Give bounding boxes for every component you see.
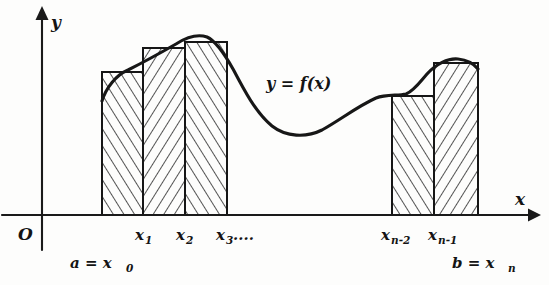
tick-label-xn-1: x n-1 bbox=[427, 226, 457, 246]
svg-text:2: 2 bbox=[185, 234, 193, 246]
svg-text:x: x bbox=[134, 226, 145, 244]
tick-label-xn-2: x n-2 bbox=[380, 226, 410, 246]
bar-1 bbox=[102, 72, 143, 215]
svg-text:x: x bbox=[215, 226, 226, 244]
svg-text:n: n bbox=[508, 262, 516, 274]
x-axis-arrowhead bbox=[528, 209, 541, 222]
endpoint-label-b: b = x n bbox=[452, 254, 516, 274]
svg-text:....: .... bbox=[233, 226, 254, 244]
y-axis-label: y bbox=[50, 12, 62, 32]
rectangle-bars-group bbox=[102, 42, 478, 215]
svg-text:x: x bbox=[427, 226, 438, 244]
svg-text:n-2: n-2 bbox=[391, 234, 410, 246]
tick-label-x3: x 3 .... bbox=[215, 226, 254, 246]
tick-label-x1: x 1 bbox=[134, 226, 152, 246]
bar-2 bbox=[143, 48, 185, 215]
y-axis-arrowhead bbox=[36, 6, 49, 20]
endpoint-label-a: a = x 0 bbox=[70, 254, 134, 274]
bar-3 bbox=[185, 42, 227, 215]
svg-text:x: x bbox=[175, 226, 186, 244]
bar-n-1 bbox=[392, 96, 434, 215]
bar-n bbox=[434, 63, 478, 215]
figure-canvas: y x O y = f(x) x 1 x 2 x 3 .... x n-2 bbox=[0, 0, 549, 285]
function-label: y = f(x) bbox=[265, 74, 331, 93]
svg-text:b = x: b = x bbox=[452, 254, 496, 272]
svg-text:a = x: a = x bbox=[70, 254, 113, 272]
x-axis-label: x bbox=[514, 189, 526, 209]
origin-label: O bbox=[18, 224, 33, 244]
svg-text:1: 1 bbox=[145, 234, 152, 246]
svg-text:x: x bbox=[380, 226, 391, 244]
integral-diagram: y x O y = f(x) x 1 x 2 x 3 .... x n-2 bbox=[0, 0, 549, 285]
svg-text:n-1: n-1 bbox=[438, 234, 457, 246]
tick-label-x2: x 2 bbox=[175, 226, 193, 246]
svg-text:0: 0 bbox=[126, 262, 134, 274]
